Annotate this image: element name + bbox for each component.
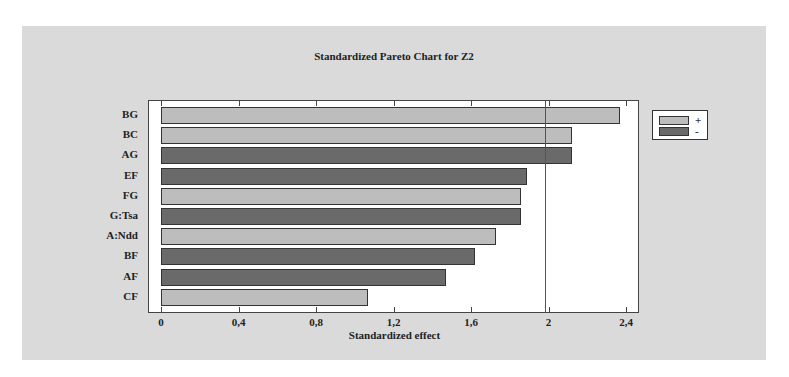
x-tick-top <box>316 101 317 106</box>
y-tick-label: BF <box>58 249 138 261</box>
x-tick-label: 0 <box>141 316 181 328</box>
y-tick-label: AG <box>58 148 138 160</box>
x-tick-bottom <box>239 307 240 312</box>
y-tick-label: BG <box>58 108 138 120</box>
x-tick-top <box>161 101 162 106</box>
bar-ef <box>161 168 527 185</box>
reference-line <box>545 101 546 312</box>
bar-bg <box>161 107 620 124</box>
x-tick-top <box>549 101 550 106</box>
x-tick-bottom <box>549 307 550 312</box>
bar-af <box>161 269 446 286</box>
legend-label-positive: + <box>695 115 701 125</box>
plot-area <box>148 100 639 313</box>
x-tick-label: 0,4 <box>219 316 259 328</box>
y-tick-label: A:Ndd <box>58 229 138 241</box>
bar-bc <box>161 127 572 144</box>
x-tick-bottom <box>316 307 317 312</box>
x-tick-label: 2,4 <box>606 316 646 328</box>
legend-swatch-negative <box>659 127 689 136</box>
y-tick-label: FG <box>58 189 138 201</box>
bar-ag <box>161 147 572 164</box>
x-tick-top <box>626 101 627 106</box>
x-tick-top <box>239 101 240 106</box>
bar-bf <box>161 248 475 265</box>
y-tick-label: BC <box>58 128 138 140</box>
x-axis-label: Standardized effect <box>0 329 789 341</box>
x-tick-bottom <box>626 307 627 312</box>
bar-cf <box>161 289 368 306</box>
legend-label-negative: - <box>695 126 699 136</box>
legend-swatch-positive <box>659 116 689 125</box>
legend: + - <box>652 110 708 140</box>
x-tick-top <box>394 101 395 106</box>
x-tick-label: 1,6 <box>451 316 491 328</box>
bar-andd <box>161 228 496 245</box>
bar-fg <box>161 188 521 205</box>
x-tick-label: 0,8 <box>296 316 336 328</box>
x-tick-bottom <box>161 307 162 312</box>
x-tick-bottom <box>394 307 395 312</box>
y-tick-label: AF <box>58 270 138 282</box>
y-tick-label: EF <box>58 169 138 181</box>
y-tick-label: CF <box>58 290 138 302</box>
x-tick-bottom <box>471 307 472 312</box>
x-tick-label: 2 <box>529 316 569 328</box>
x-tick-top <box>471 101 472 106</box>
y-tick-label: G:Tsa <box>58 209 138 221</box>
bar-gtsa <box>161 208 521 225</box>
x-tick-label: 1,2 <box>374 316 414 328</box>
chart-title: Standardized Pareto Chart for Z2 <box>22 50 766 62</box>
